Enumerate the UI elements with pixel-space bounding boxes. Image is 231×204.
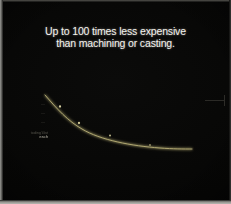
cost-curve-glow (45, 95, 192, 149)
y-axis-title-line-1: tooling cost (31, 131, 48, 135)
slide-title-line-1: Up to 100 times less expensive (45, 25, 186, 37)
photo-edge-right (229, 0, 231, 204)
right-axis-tick (205, 95, 225, 106)
photographed-slide: tooling cost each Up to 100 times less e… (0, 0, 231, 204)
cost-curve-line (45, 95, 192, 149)
slide-title: Up to 100 times less expensive than mach… (0, 26, 231, 49)
slide-title-line-2: than machining or casting. (0, 38, 231, 50)
photo-edge-bottom (0, 200, 231, 204)
y-axis-title-line-2: each (14, 135, 48, 139)
y-axis-title: tooling cost each (14, 131, 48, 140)
y-axis-ticks (41, 105, 45, 132)
photo-edge-left (0, 0, 3, 204)
photo-edge-top (0, 0, 231, 2)
